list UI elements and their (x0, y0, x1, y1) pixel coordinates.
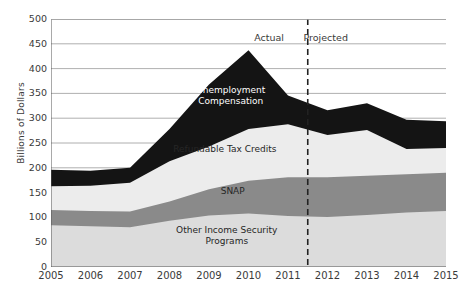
y-tick-200: 200 (7, 163, 47, 173)
x-tick-2013: 2013 (347, 270, 387, 281)
x-tick-2010: 2010 (229, 270, 269, 281)
stacked-areas (51, 50, 446, 267)
y-tick-250: 250 (7, 138, 47, 148)
y-tick-50: 50 (7, 237, 47, 247)
x-tick-2008: 2008 (150, 270, 190, 281)
x-axis-tick-labels: 2005200620072008200920102011201220132014… (0, 270, 465, 290)
y-tick-450: 450 (7, 39, 47, 49)
x-tick-2007: 2007 (110, 270, 150, 281)
y-tick-500: 500 (7, 14, 47, 24)
y-axis-tick-labels: 500450400350300250200150100500 (3, 0, 47, 298)
plot-area: Unemployment Compensation Refundable Tax… (51, 19, 446, 267)
y-tick-300: 300 (7, 113, 47, 123)
y-tick-100: 100 (7, 212, 47, 222)
x-tick-2015: 2015 (426, 270, 465, 281)
projected-period-label: Projected (304, 32, 348, 43)
y-tick-400: 400 (7, 64, 47, 74)
y-tick-150: 150 (7, 188, 47, 198)
x-tick-2005: 2005 (31, 270, 71, 281)
x-tick-2012: 2012 (308, 270, 348, 281)
income-security-area-chart: Billions of Dollars 50045040035030025020… (0, 0, 465, 298)
x-tick-2014: 2014 (387, 270, 427, 281)
y-tick-350: 350 (7, 88, 47, 98)
x-tick-2011: 2011 (268, 270, 308, 281)
x-tick-2006: 2006 (71, 270, 111, 281)
x-tick-2009: 2009 (189, 270, 229, 281)
plot-svg (51, 19, 446, 267)
actual-period-label: Actual (254, 32, 284, 43)
